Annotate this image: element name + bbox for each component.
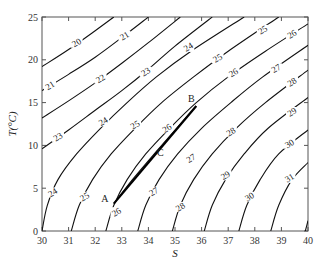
y-tick-label: 10: [28, 140, 38, 151]
point-label-A: A: [101, 193, 109, 204]
x-tick-label: 34: [143, 235, 153, 246]
x-tick-label: 40: [303, 235, 313, 246]
point-label-C: C: [157, 147, 164, 158]
y-tick-label: 5: [33, 183, 38, 194]
x-tick-label: 35: [170, 235, 180, 246]
ts-diagram: 30313233343536373839400510152025ST(°C)20…: [0, 0, 324, 266]
y-tick-label: 25: [28, 12, 38, 23]
x-tick-label: 36: [197, 235, 207, 246]
x-tick-label: 38: [250, 235, 260, 246]
x-tick-label: 30: [37, 235, 47, 246]
isopycnal-30: [239, 130, 308, 231]
isopycnal-24: [42, 17, 244, 231]
x-tick-label: 37: [223, 235, 233, 246]
point-label-B: B: [188, 93, 195, 104]
y-tick-label: 20: [28, 54, 38, 65]
x-tick-label: 39: [276, 235, 286, 246]
x-tick-label: 32: [90, 235, 100, 246]
y-tick-label: 15: [28, 97, 38, 108]
y-axis-label: T(°C): [6, 111, 19, 137]
x-tick-label: 33: [117, 235, 127, 246]
isopycnal-22: [42, 17, 180, 118]
x-tick-label: 31: [64, 235, 74, 246]
x-axis-label: S: [172, 247, 178, 259]
plot-area: 30313233343536373839400510152025ST(°C)20…: [6, 12, 313, 260]
y-tick-label: 0: [33, 226, 38, 237]
isopycnal-27: [138, 45, 308, 231]
